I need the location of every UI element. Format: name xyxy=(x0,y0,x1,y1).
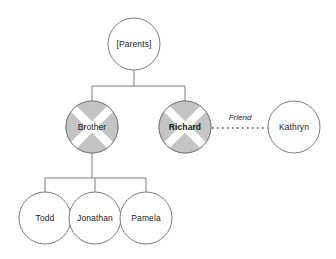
node-label-kathryn: Kathryn xyxy=(279,123,309,132)
edge-parents-to-children xyxy=(92,70,185,101)
node-label-richard: Richard xyxy=(169,123,201,132)
node-label-brother: Brother xyxy=(78,123,107,132)
node-label-jonathan: Jonathan xyxy=(77,214,113,223)
node-label-parents: [Parents] xyxy=(117,40,152,49)
edge-brother-to-children xyxy=(45,153,146,193)
genogram-diagram: [Parents] Brother Richard Kathryn Todd J… xyxy=(0,0,336,259)
node-label-todd: Todd xyxy=(36,214,55,223)
node-label-pamela: Pamela xyxy=(131,214,160,223)
edge-label-friend: Friend xyxy=(229,114,252,122)
